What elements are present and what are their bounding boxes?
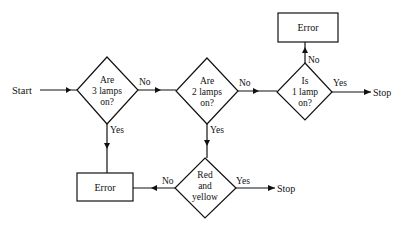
edge-d4-yes-to-stop: Yes <box>236 176 275 191</box>
edge-d3-yes-label: Yes <box>333 78 347 88</box>
decision-1-lamp-line2: 1 lamp <box>292 87 318 97</box>
decision-red-yellow-line1: Red <box>197 170 213 180</box>
decision-3-lamps-line3: on? <box>100 97 114 107</box>
process-error-top-label: Error <box>297 22 319 33</box>
edge-d1-no-label: No <box>139 77 151 87</box>
decision-3-lamps-line1: Are <box>100 75 114 85</box>
flowchart-canvas: Start Are 3 lamps on? No Yes Are 2 lamps… <box>0 0 408 230</box>
edge-d1-yes-to-error: Yes <box>104 124 124 173</box>
decision-1-lamp-line1: Is <box>302 76 309 86</box>
edge-d2-no-label: No <box>239 78 251 88</box>
decision-2-lamps-line3: on? <box>200 98 214 108</box>
decision-red-yellow-line2: and <box>198 181 212 191</box>
edge-d3-no-to-error: No <box>302 42 320 65</box>
process-error-top: Error <box>278 13 338 42</box>
terminal-stop-bottom: Stop <box>277 183 295 194</box>
decision-3-lamps-line2: 3 lamps <box>92 86 122 96</box>
edge-d2-yes-label: Yes <box>210 125 224 135</box>
process-error-bottom: Error <box>77 173 133 201</box>
decision-red-yellow-line3: yellow <box>192 192 218 202</box>
decision-2-lamps-line1: Are <box>200 76 214 86</box>
edge-d2-yes-to-d4: Yes <box>204 124 224 158</box>
edge-d4-yes-label: Yes <box>236 176 250 186</box>
decision-2-lamps-line2: 2 lamps <box>192 87 222 97</box>
terminal-stop-right: Stop <box>373 87 391 98</box>
decision-1-lamp-line3: on? <box>298 98 312 108</box>
edge-d4-no-label: No <box>162 176 174 186</box>
decision-2-lamps: Are 2 lamps on? <box>176 58 238 124</box>
decision-red-and-yellow: Red and yellow <box>175 158 236 218</box>
edge-d1-yes-label: Yes <box>110 125 124 135</box>
decision-3-lamps: Are 3 lamps on? <box>77 57 138 124</box>
edge-start-to-d1 <box>40 87 77 93</box>
decision-1-lamp: Is 1 lamp on? <box>277 63 332 120</box>
edge-d1-no-to-d2: No <box>138 77 176 93</box>
edge-d2-no-to-d3: No <box>238 78 277 94</box>
edge-d4-no-to-error: No <box>133 176 175 191</box>
start-label: Start <box>12 85 32 96</box>
edge-d3-no-label: No <box>308 55 320 65</box>
process-error-bottom-label: Error <box>94 182 116 193</box>
edge-d3-yes-to-stop: Yes <box>332 78 371 95</box>
